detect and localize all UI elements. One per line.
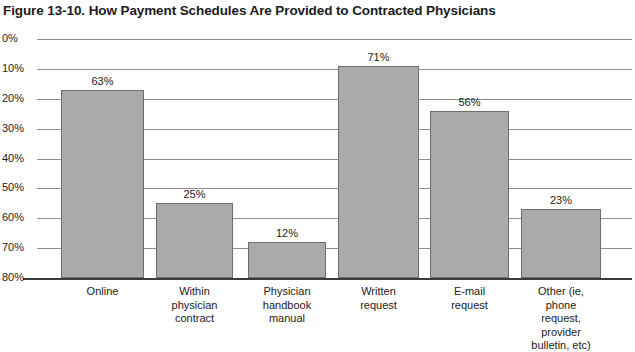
y-axis-tick-label: 80% bbox=[2, 272, 35, 283]
gridline bbox=[37, 69, 632, 70]
chart-plot-area: 80%70%60%50%40%30%20%10%0%63%Online25%Wi… bbox=[0, 0, 635, 352]
bar bbox=[156, 203, 233, 278]
figure-container: Figure 13-10. How Payment Schedules Are … bbox=[0, 0, 635, 352]
x-axis-category-label: Other (ie,phonerequest,providerbulletin,… bbox=[507, 285, 615, 352]
y-axis-tick-label: 20% bbox=[2, 93, 35, 104]
y-axis-tick-label: 40% bbox=[2, 153, 35, 164]
y-axis-tick-label: 10% bbox=[2, 63, 35, 74]
y-axis-tick-label: 0% bbox=[2, 33, 35, 44]
bar bbox=[521, 209, 601, 278]
gridline bbox=[37, 39, 632, 40]
y-axis-tick-label: 30% bbox=[2, 123, 35, 134]
bar bbox=[338, 66, 419, 278]
y-axis-tick-label: 70% bbox=[2, 242, 35, 253]
bar-value-label: 71% bbox=[338, 51, 419, 63]
bar-value-label: 23% bbox=[521, 194, 601, 206]
bar-value-label: 63% bbox=[61, 75, 144, 87]
axis-baseline bbox=[23, 278, 632, 280]
bar-value-label: 25% bbox=[156, 188, 233, 200]
bar bbox=[61, 90, 144, 278]
bar-value-label: 56% bbox=[430, 96, 509, 108]
y-axis-tick-label: 50% bbox=[2, 182, 35, 193]
x-axis-category-label: Withinphysiciancontract bbox=[142, 285, 247, 326]
bar bbox=[248, 242, 326, 278]
bar-value-label: 12% bbox=[248, 227, 326, 239]
y-axis-tick-label: 60% bbox=[2, 212, 35, 223]
bar bbox=[430, 111, 509, 278]
